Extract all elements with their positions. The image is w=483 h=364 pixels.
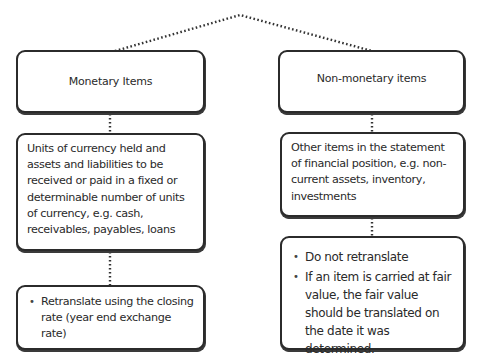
non-monetary-treatment-list: Do not retranslate If an item is carried…: [291, 248, 455, 358]
monetary-definition-text: Units of currency held and assets and li…: [27, 142, 185, 236]
non-monetary-treatment-box: Do not retranslate If an item is carried…: [280, 236, 465, 350]
monetary-treatment-box: Retranslate using the closing rate (year…: [16, 285, 205, 350]
non-monetary-definition-text: Other items in the statement of financia…: [291, 141, 446, 203]
monetary-items-title: Monetary Items: [69, 75, 153, 88]
treatment-bullet: Do not retranslate: [291, 248, 455, 266]
monetary-items-box: Monetary Items: [16, 50, 205, 113]
non-monetary-definition-box: Other items in the statement of financia…: [280, 132, 465, 217]
non-monetary-items-box: Non-monetary items: [278, 50, 465, 113]
non-monetary-items-title: Non-monetary items: [317, 72, 427, 85]
monetary-definition-box: Units of currency held and assets and li…: [16, 133, 205, 251]
treatment-bullet: If an item is carried at fair value, the…: [291, 268, 455, 358]
top-branch-connector: [115, 15, 372, 51]
monetary-treatment-list: Retranslate using the closing rate (year…: [27, 294, 195, 343]
treatment-bullet: Retranslate using the closing rate (year…: [27, 294, 195, 343]
